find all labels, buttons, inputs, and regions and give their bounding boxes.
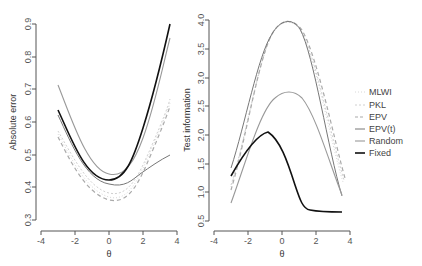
series-pkl [231,21,344,185]
series-fixed [231,132,342,212]
right-x-ticks [214,231,350,235]
ytick-label: 1.0 [196,186,206,199]
xtick-label: 0 [106,236,111,246]
xtick-label: 4 [347,236,352,246]
legend-item-random: Random [355,136,403,146]
ytick-label: 0.8 [23,51,33,64]
left-x-tick-labels: -4 -2 0 2 4 [37,236,180,246]
ytick-label: 3.0 [196,72,206,85]
ytick-label: 0.9 [23,18,33,31]
left-y-tick-labels: 0.3 0.4 0.5 0.6 0.7 0.8 0.9 [23,18,33,227]
right-panel: 0.5 1.0 1.5 2.0 2.5 3.0 3.5 4.0 Test inf… [182,14,353,259]
right-x-tick-labels: -4 -2 0 2 4 [210,236,353,246]
svg-text:EPV(t): EPV(t) [369,124,396,134]
series-random [58,38,170,175]
series-fixed [58,24,170,180]
xtick-label: -2 [71,236,79,246]
xtick-label: 4 [174,236,179,246]
ytick-label: 0.5 [196,215,206,228]
svg-text:Fixed: Fixed [369,148,391,158]
legend-item-mlwi: MLWI [355,87,392,97]
ytick-label: 4.0 [196,14,206,27]
svg-text:Random: Random [369,136,403,146]
ytick-label: 0.3 [23,214,33,227]
xtick-label: -4 [37,236,45,246]
legend: MLWI PKL EPV EPV(t) Random Fixed [355,87,403,158]
right-y-tick-labels: 0.5 1.0 1.5 2.0 2.5 3.0 3.5 4.0 [196,14,206,228]
xtick-label: -2 [244,236,252,246]
xtick-label: 0 [279,236,284,246]
ytick-label: 2.5 [196,100,206,113]
legend-item-fixed: Fixed [355,148,391,158]
ytick-label: 0.6 [23,116,33,129]
left-x-ticks [41,231,177,235]
ytick-label: 0.4 [23,181,33,194]
right-y-axis-label: Test information [182,88,192,152]
legend-item-pkl: PKL [355,100,386,110]
legend-item-epv: EPV [355,112,387,122]
left-series [58,24,170,201]
figure: 0.3 0.4 0.5 0.6 0.7 0.8 0.9 Absolute err… [0,0,422,266]
series-epv [58,106,170,201]
left-panel: 0.3 0.4 0.5 0.6 0.7 0.8 0.9 Absolute err… [8,18,180,259]
svg-text:MLWI: MLWI [369,87,392,97]
xtick-label: 2 [140,236,145,246]
ytick-label: 0.5 [23,149,33,162]
left-x-axis-label: θ [106,249,111,259]
ytick-label: 3.5 [196,43,206,56]
xtick-label: 2 [313,236,318,246]
right-series [231,21,345,212]
ytick-label: 2.0 [196,129,206,142]
legend-item-epvt: EPV(t) [355,124,396,134]
xtick-label: -4 [210,236,218,246]
svg-text:EPV: EPV [369,112,387,122]
left-y-axis-label: Absolute error [8,94,18,151]
right-x-axis-label: θ [279,249,284,259]
ytick-label: 0.7 [23,83,33,96]
ytick-label: 1.5 [196,158,206,171]
svg-text:PKL: PKL [369,100,386,110]
